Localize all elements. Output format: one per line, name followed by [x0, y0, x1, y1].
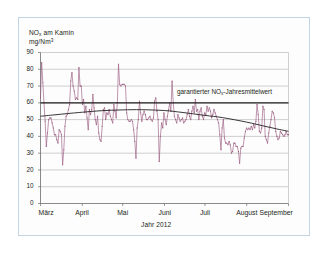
- y-tick-label: 10: [20, 183, 34, 189]
- x-tick-label: März: [39, 209, 54, 216]
- y-tick-label: 80: [20, 66, 34, 72]
- x-tick-label: Juli: [200, 209, 210, 216]
- data-series-markers: [40, 62, 289, 165]
- y-tick-label: 0: [20, 200, 34, 206]
- x-tick-label: Mai: [117, 209, 128, 216]
- chart-root: NOx am Kamin mg/Nm3 0102030405060708090 …: [0, 0, 328, 255]
- plot-frame: [41, 53, 289, 204]
- y-tick-label: 70: [20, 83, 34, 89]
- y-tick-label: 90: [20, 49, 34, 55]
- y-tick-label: 30: [20, 150, 34, 156]
- y-axis-unit-label: mg/Nm3: [29, 37, 54, 46]
- x-tick-label: Juni: [159, 209, 171, 216]
- threshold-annotation-label: garantierter NOx-Jahresmittelwert: [177, 88, 272, 97]
- x-axis-title: Jahr 2012: [141, 221, 171, 229]
- x-tick-label: September: [260, 209, 293, 216]
- x-tick-label: August: [236, 209, 257, 216]
- trend-line: [41, 110, 289, 132]
- y-tick-label: 60: [20, 99, 34, 105]
- y-tick-label: 20: [20, 167, 34, 173]
- y-tick-label: 40: [20, 133, 34, 139]
- data-series-nox: [41, 63, 289, 165]
- x-tick-label: April: [75, 209, 89, 216]
- y-tick-label: 50: [20, 116, 34, 122]
